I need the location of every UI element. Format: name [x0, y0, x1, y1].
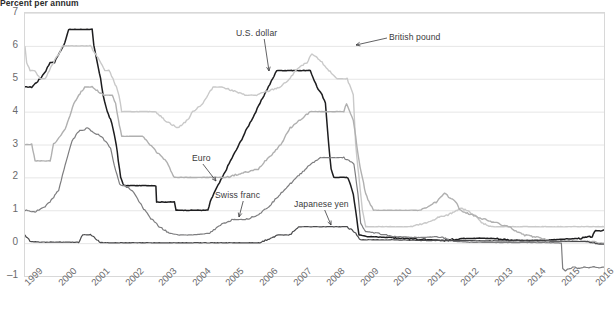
- plot-area: [24, 12, 605, 277]
- y-tick-label: 4: [0, 106, 18, 116]
- annotation-u-s-dollar: U.S. dollar: [236, 28, 277, 38]
- series-line-japanese-yen: [25, 227, 604, 245]
- y-tick-label: 5: [0, 73, 18, 83]
- leader-line: [264, 39, 269, 71]
- y-tick-label: 0: [0, 237, 18, 247]
- leader-line: [203, 164, 216, 181]
- chart-root: Percent per annum 76543210–1 19992000200…: [0, 0, 614, 321]
- y-tick-label: 2: [0, 171, 18, 181]
- y-tick-label: 3: [0, 139, 18, 149]
- annotation-british-pound: British pound: [389, 32, 440, 42]
- y-tick-label: –1: [0, 270, 18, 280]
- annotation-japanese-yen: Japanese yen: [294, 199, 349, 209]
- chart-svg: [25, 13, 604, 276]
- y-tick-label: 7: [0, 7, 18, 17]
- leader-line: [356, 38, 387, 45]
- annotation-swiss-franc: Swiss franc: [215, 190, 260, 200]
- gridlines: [25, 14, 604, 277]
- series-line-u-s-dollar: [25, 29, 604, 241]
- series-line-euro: [25, 86, 604, 243]
- leader-line: [325, 210, 331, 225]
- annotation-euro: Euro: [192, 153, 211, 163]
- y-tick-label: 6: [0, 40, 18, 50]
- y-tick-label: 1: [0, 204, 18, 214]
- series-lines: [25, 29, 604, 271]
